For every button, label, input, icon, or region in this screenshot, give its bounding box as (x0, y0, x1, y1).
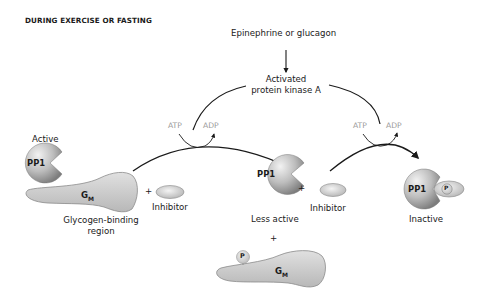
kinase-label: Activated protein kinase A (236, 74, 336, 96)
reaction-arrow-1 (133, 134, 288, 171)
inhibitor-2 (320, 184, 346, 197)
gm-active-text: GM (81, 190, 94, 202)
region-label-line2: region (46, 226, 156, 237)
inhibitor-1-label: Inhibitor (152, 202, 188, 212)
phospho-gm-text: P (240, 252, 245, 260)
phospho-inactive-text: P (444, 184, 448, 191)
pp1-inactive-text: PP1 (408, 184, 426, 194)
region-label-line1: Glycogen-binding (46, 215, 156, 226)
pp1-less-active-text: PP1 (257, 169, 275, 179)
plus-1: + (145, 186, 152, 196)
kinase-label-line2: protein kinase A (236, 85, 336, 96)
inhibitor-1 (156, 186, 184, 199)
atp-label-1: ATP (168, 121, 182, 130)
active-label: Active (32, 134, 59, 144)
inhibitor-2-label: Inhibitor (310, 203, 346, 213)
less-active-label: Less active (251, 214, 299, 224)
region-label: Glycogen-binding region (46, 215, 156, 237)
reaction-arrow-2 (330, 133, 418, 171)
pp1-active-text: PP1 (27, 158, 45, 168)
adp-label-2: ADP (386, 121, 402, 130)
plus-2: + (298, 183, 305, 193)
signal-label: Epinephrine or glucagon (231, 28, 336, 38)
inactive-label: Inactive (409, 214, 443, 224)
gm-phospho-text: GM (275, 266, 288, 278)
kinase-label-line1: Activated (236, 74, 336, 85)
plus-3: + (270, 233, 277, 243)
pathway-diagram (0, 0, 490, 307)
adp-label-1: ADP (203, 121, 219, 130)
gm-subunit-phosphorylated (217, 251, 326, 287)
atp-label-2: ATP (353, 121, 367, 130)
diagram-title: DURING EXERCISE OR FASTING (25, 16, 152, 25)
